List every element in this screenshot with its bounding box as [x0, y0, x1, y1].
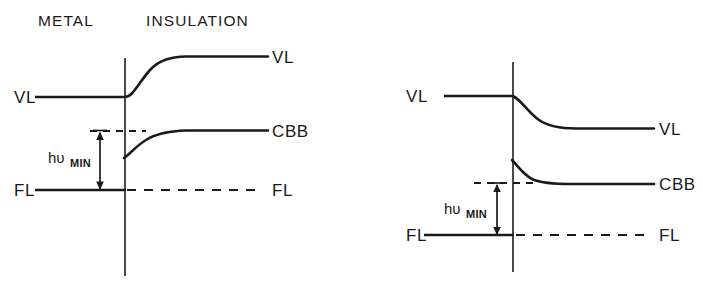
left-insulator-vacuum-level-curve [125, 57, 268, 98]
left-insulator-cbb-label: CBB [272, 122, 309, 141]
left-panel: METAL INSULATION [14, 12, 309, 276]
left-hv-min-arrow [93, 131, 107, 191]
right-metal-vl-label: VL [406, 87, 428, 106]
left-insulator-cbb-curve [124, 131, 268, 159]
left-metal-vl-label: VL [14, 88, 36, 107]
diagram-canvas: METAL INSULATION [0, 0, 703, 287]
left-insulator-fl-label: FL [272, 181, 293, 200]
right-metal-fl-label: FL [406, 226, 427, 245]
left-header-metal: METAL [38, 12, 94, 29]
right-insulator-vl-label: VL [659, 120, 681, 139]
left-hv-min-sublabel: MIN [70, 157, 91, 169]
left-header-insulation: INSULATION [146, 12, 249, 29]
right-hv-min-sublabel: MIN [466, 208, 487, 220]
right-panel: hυ MIN VL FL VL CBB FL [406, 62, 696, 272]
left-insulator-vl-label: VL [272, 48, 294, 67]
right-hv-min-arrow [490, 183, 504, 235]
right-insulator-cbb-curve [512, 160, 654, 184]
right-insulator-fl-label: FL [659, 226, 680, 245]
right-hv-min-label: hυ [444, 200, 461, 217]
energy-band-diagram-figure: METAL INSULATION [0, 0, 703, 287]
left-metal-fl-label: FL [14, 181, 35, 200]
right-insulator-vacuum-level-curve [513, 96, 654, 129]
left-hv-min-label: hυ [48, 149, 65, 166]
right-insulator-cbb-label: CBB [659, 175, 696, 194]
